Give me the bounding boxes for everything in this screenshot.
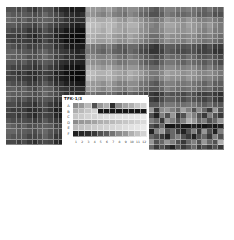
inset-col-label: 12 [141,140,147,144]
inset-row-label: A [66,104,71,108]
inset-col-label: 3 [85,140,91,144]
inset-col-label: 9 [123,140,129,144]
inset-row-label: D [66,121,71,125]
inset-col-label: 11 [135,140,141,144]
inset-cell [141,131,147,137]
inset-col-label: 7 [110,140,116,144]
inset-col-label: 6 [104,140,110,144]
inset-row-label: B [66,110,71,114]
inset-col-label: 8 [116,140,122,144]
inset-col-label: 5 [98,140,104,144]
inset-col-label: 1 [73,140,79,144]
inset-row-label: E [66,126,71,130]
inset-col-label: 2 [79,140,85,144]
inset-row-label: F [66,132,71,136]
heatmap-cell [218,145,224,151]
inset-title: TFK-1/3 [64,96,82,101]
inset-row-label: C [66,115,71,119]
inset-col-label: 4 [92,140,98,144]
inset-heatmap-panel: TFK-1/3 ABCDEF123456789101112 [62,95,148,145]
inset-col-label: 10 [129,140,135,144]
